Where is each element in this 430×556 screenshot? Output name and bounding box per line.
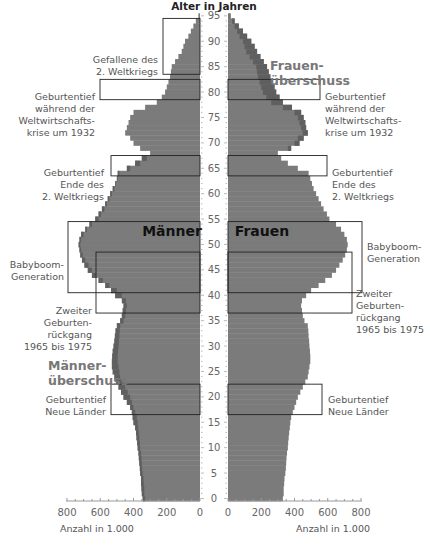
women-bar (228, 120, 305, 125)
men-bar (114, 344, 200, 349)
men-bar (125, 130, 200, 135)
ann-second-left-line4: 1965 bis 1975 (24, 341, 92, 352)
men-bar (130, 404, 200, 409)
women-bar (228, 283, 319, 288)
men-bar (188, 34, 200, 39)
women-surplus-bar (288, 145, 291, 150)
ann-1932-right-line1: Geburtentief (325, 91, 386, 102)
men-bar (108, 196, 200, 201)
women-bar (228, 333, 309, 338)
ann-babyboom-right-line1: Babyboom- (367, 241, 421, 252)
y-tick-label: 80 (208, 87, 221, 98)
x-tick-label-right: 200 (252, 507, 271, 518)
men-bar (92, 272, 200, 277)
men-surplus-bar (79, 247, 81, 252)
men-bars (79, 13, 200, 501)
women-bar (228, 486, 284, 491)
men-surplus-bar (141, 481, 144, 486)
men-bar (138, 445, 200, 450)
men-bar (135, 425, 200, 430)
women-bar (228, 344, 309, 349)
ann-1932-right-line3: Weltwirtschafts- (325, 115, 401, 126)
men-bar (165, 90, 200, 95)
women-bar (228, 450, 287, 455)
men-bar (129, 120, 200, 125)
women-surplus-bar (246, 49, 257, 54)
men-surplus-bar (105, 283, 109, 288)
men-surplus-bar (127, 166, 130, 171)
women-bar (228, 277, 325, 282)
men-bar (141, 476, 200, 481)
population-pyramid-chart: 8006004002000020040060080005101520253035… (0, 0, 430, 556)
men-bar (133, 415, 200, 420)
men-bar (112, 364, 200, 369)
men-bar (122, 313, 200, 318)
men-surplus-bar (114, 338, 118, 343)
men-bar (145, 105, 200, 110)
men-surplus-bar (105, 201, 107, 206)
women-surplus-bar (245, 44, 255, 49)
women-bar (228, 323, 308, 328)
men-bar (112, 359, 200, 364)
men-bar (157, 100, 200, 105)
women-surplus-bar (256, 64, 267, 69)
men-bar (134, 420, 201, 425)
women-bar (228, 430, 289, 435)
men-surplus-bar (110, 191, 112, 196)
men-surplus-bar (121, 389, 128, 394)
women-bar (228, 318, 304, 323)
men-surplus-bar (141, 486, 144, 491)
men-bar (117, 323, 200, 328)
men-bar (142, 156, 200, 161)
women-bar (228, 196, 319, 201)
men-surplus-bar (79, 237, 81, 242)
men-bar (127, 166, 200, 171)
women-surplus-bar (232, 18, 234, 23)
women-bar (228, 374, 308, 379)
men-surplus-bar (133, 415, 137, 420)
ann-ww2end-left-line3: 2. Weltkriegs (42, 191, 104, 202)
ann-neue-right-line1: Geburtentief (328, 394, 389, 405)
men-surplus-label-line2: überschuss (48, 373, 128, 388)
women-surplus-label-line2: überschuss (270, 73, 350, 88)
x-tick-label-right: 800 (351, 507, 370, 518)
ann-babyboom-left-line2: Generation (11, 271, 64, 282)
women-bar (228, 145, 291, 150)
men-bar (115, 293, 200, 298)
men-bar (142, 491, 200, 496)
women-bar (228, 130, 308, 135)
men-surplus-bar (99, 211, 101, 216)
women-surplus-bar (243, 39, 251, 44)
women-bar (228, 298, 302, 303)
men-bar (185, 39, 200, 44)
women-bar (228, 201, 321, 206)
women-label: Frauen (235, 223, 289, 239)
men-surplus-bar (140, 471, 142, 476)
women-bar (228, 161, 288, 166)
men-surplus-bar (142, 491, 144, 496)
men-bar (127, 125, 200, 130)
y-tick-label: 65 (208, 163, 221, 174)
women-surplus-bar (298, 135, 304, 140)
men-bar (102, 206, 200, 211)
ann-ww2end-right-line2: Ende des (332, 179, 376, 190)
women-bar (228, 481, 284, 486)
women-bar (228, 471, 285, 476)
x-tick-label-left: 600 (91, 507, 110, 518)
y-tick-label: 50 (208, 239, 221, 250)
men-surplus-bar (85, 227, 87, 232)
men-surplus-bar (124, 394, 131, 399)
women-bar (228, 404, 295, 409)
men-bar (140, 465, 200, 470)
men-surplus-bar (79, 242, 81, 247)
men-surplus-bar (122, 298, 126, 303)
women-surplus-bar (295, 110, 302, 115)
y-tick-label: 90 (208, 36, 221, 47)
men-surplus-bar (102, 206, 104, 211)
men-bar (113, 186, 200, 191)
ann-1932-left-line4: krise um 1932 (27, 127, 95, 138)
men-surplus-bar (116, 328, 120, 333)
men-bar (115, 333, 200, 338)
men-bar (134, 140, 201, 145)
ann-1932-left-line2: während der (35, 103, 95, 114)
